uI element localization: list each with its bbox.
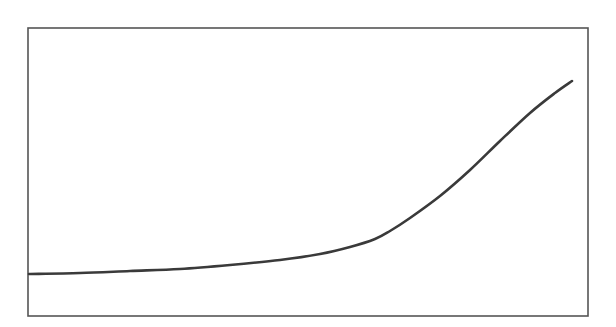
- data-curve: [29, 81, 572, 274]
- line-chart: [0, 0, 616, 327]
